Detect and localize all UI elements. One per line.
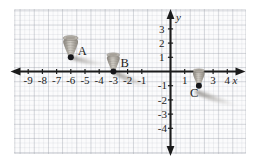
y-axis-arrow-up	[167, 9, 175, 19]
y-tick-label: -2	[158, 94, 167, 106]
x-tick-label: -2	[123, 74, 132, 86]
x-tick-label: -1	[137, 74, 146, 86]
point-dot-b[interactable]	[110, 69, 116, 75]
x-tick-label: -9	[24, 74, 34, 86]
point-dot-a[interactable]	[68, 54, 74, 60]
x-axis-label: x	[232, 74, 238, 86]
y-tick-label: -1	[158, 79, 167, 91]
point-label-b: B	[120, 56, 128, 70]
x-tick-label: -8	[38, 74, 48, 86]
debris-trail-a	[70, 56, 109, 65]
y-tick-label: 2	[159, 37, 165, 49]
y-axis-arrow-down	[167, 146, 175, 156]
point-label-c: C	[190, 86, 198, 100]
x-tick-label: 3	[210, 74, 216, 86]
figure-canvas: -9 -8 -7 -6 -5 -4 -3 -2 -1 1 2 3 4 3 2 1…	[0, 0, 259, 162]
debris-trail-c	[195, 90, 238, 106]
y-axis-tick-labels: 3 2 1 -1 -2 -3 -4	[158, 23, 168, 134]
y-tick-label: -3	[158, 108, 168, 120]
x-tick-label: -6	[66, 74, 76, 86]
y-tick-label: -4	[158, 122, 168, 134]
x-tick-label: -7	[52, 74, 62, 86]
x-tick-label: -3	[109, 74, 119, 86]
x-tick-label: -5	[80, 74, 90, 86]
coordinate-plane: -9 -8 -7 -6 -5 -4 -3 -2 -1 1 2 3 4 3 2 1…	[0, 0, 259, 162]
x-tick-label: 1	[182, 74, 188, 86]
x-axis-arrow-left	[11, 68, 21, 76]
y-tick-label: 3	[159, 23, 165, 35]
x-tick-label: 4	[225, 74, 231, 86]
x-tick-label: -4	[95, 74, 105, 86]
y-tick-label: 1	[159, 51, 165, 63]
y-axis-label: y	[175, 11, 181, 23]
point-label-a: A	[78, 44, 87, 58]
